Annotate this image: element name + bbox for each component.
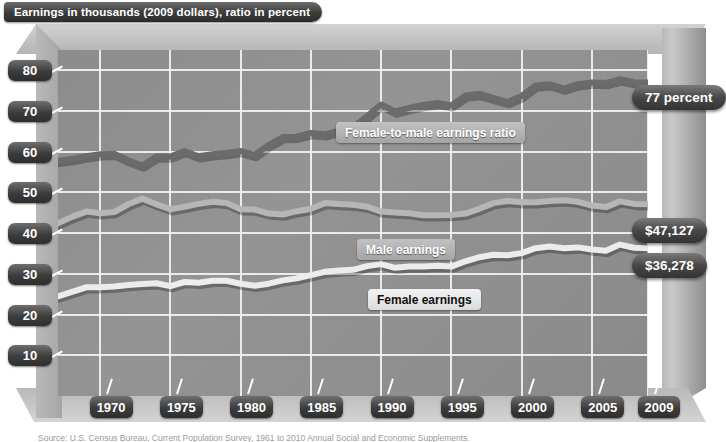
series-label-male: Male earnings [357, 239, 455, 260]
x-axis-label: 1990 [371, 396, 414, 418]
y-axis-label: 80 [8, 60, 52, 81]
series-lines [58, 50, 648, 396]
y-axis-label: 10 [8, 345, 52, 366]
callout-male: $47,127 [632, 218, 707, 243]
plot-area [58, 50, 648, 396]
x-axis-label: 2009 [638, 396, 681, 418]
y-axis-label: 60 [8, 142, 52, 163]
y-axis-label: 20 [8, 305, 52, 326]
series-line [58, 199, 648, 224]
x-axis-label: 1995 [441, 396, 484, 418]
y-axis-label: 40 [8, 223, 52, 244]
x-axis-label: 2005 [581, 396, 624, 418]
y-axis-label: 50 [8, 182, 52, 203]
callout-female: $36,278 [632, 253, 707, 278]
source-note: Source: U.S. Census Bureau, Current Popu… [38, 433, 698, 442]
x-axis-label: 1980 [230, 396, 273, 418]
callout-ratio: 77 percent [632, 85, 726, 110]
y-axis-label: 70 [8, 101, 52, 122]
chart-3d-frame: 8070605040302010 19701975198019851990199… [0, 18, 722, 428]
x-axis-label: 1975 [160, 396, 203, 418]
y-axis-label: 30 [8, 264, 52, 285]
x-axis-label: 1985 [300, 396, 343, 418]
chart-title: Earnings in thousands (2009 dollars), ra… [4, 2, 322, 22]
series-label-ratio: Female-to-male earnings ratio [336, 122, 525, 143]
x-axis-label: 2000 [511, 396, 554, 418]
x-axis-label: 1970 [90, 396, 133, 418]
series-label-female: Female earnings [368, 289, 481, 310]
series-line-shadow [60, 248, 649, 300]
